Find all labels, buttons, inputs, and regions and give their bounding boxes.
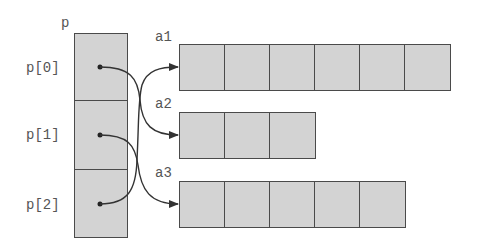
pointer-arrows [0,0,478,250]
